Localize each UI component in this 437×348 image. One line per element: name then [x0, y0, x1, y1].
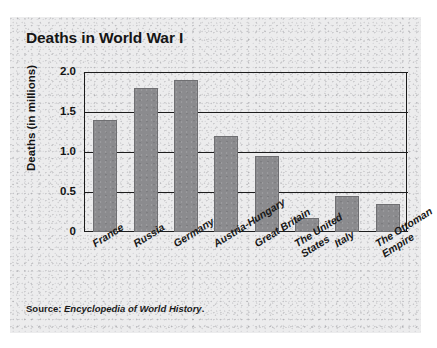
source-prefix: Source: — [26, 303, 64, 314]
bar — [174, 80, 198, 232]
y-tick-label: 1.5 — [24, 106, 76, 118]
source-suffix: . — [202, 303, 205, 314]
y-tick-label: 0 — [24, 226, 76, 238]
y-tick-label: 0.5 — [24, 186, 76, 198]
y-tick-label: 2.0 — [24, 66, 76, 78]
source-note: Source: Encyclopedia of World History. — [26, 303, 204, 314]
y-tick-label: 1.0 — [24, 146, 76, 158]
gridline-2-0 — [85, 72, 408, 73]
bar — [134, 88, 158, 232]
bar — [93, 120, 117, 232]
plot-area — [84, 72, 407, 232]
source-title: Encyclopedia of World History — [64, 303, 202, 314]
bar — [214, 136, 238, 232]
